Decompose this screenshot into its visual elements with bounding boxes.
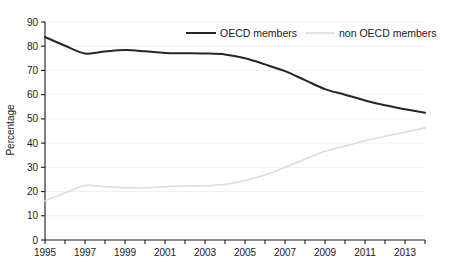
x-axis-tick-label: 2001 <box>154 247 177 258</box>
legend-label: OECD members <box>220 27 297 39</box>
x-axis-tick-label: 2013 <box>394 247 417 258</box>
x-axis-tick-label: 2009 <box>314 247 337 258</box>
x-axis-tick-label: 1995 <box>34 247 57 258</box>
y-axis-tick-label: 40 <box>27 138 39 149</box>
chart-background <box>0 0 449 267</box>
x-axis-tick-label: 2011 <box>354 247 376 258</box>
y-axis-tick-label: 50 <box>27 113 39 124</box>
chart-container: 0102030405060708090 19951997199920012003… <box>0 0 449 267</box>
y-axis-title: Percentage <box>5 104 16 156</box>
x-axis-tick-label: 2005 <box>234 247 257 258</box>
y-axis-tick-label: 10 <box>27 210 39 221</box>
y-axis-tick-label: 60 <box>27 89 39 100</box>
line-chart: 0102030405060708090 19951997199920012003… <box>0 0 449 267</box>
y-axis-tick-label: 20 <box>27 186 39 197</box>
y-axis-tick-label: 90 <box>27 17 39 28</box>
y-axis-tick-label: 0 <box>32 235 38 246</box>
y-axis-tick-label: 80 <box>27 41 39 52</box>
x-axis-tick-label: 2007 <box>274 247 297 258</box>
x-axis-tick-label: 2003 <box>194 247 217 258</box>
x-axis-tick-label: 1997 <box>74 247 97 258</box>
legend-label: non OECD members <box>339 27 436 39</box>
y-axis-tick-label: 70 <box>27 65 39 76</box>
y-axis-tick-label: 30 <box>27 162 39 173</box>
x-axis-tick-label: 1999 <box>114 247 137 258</box>
